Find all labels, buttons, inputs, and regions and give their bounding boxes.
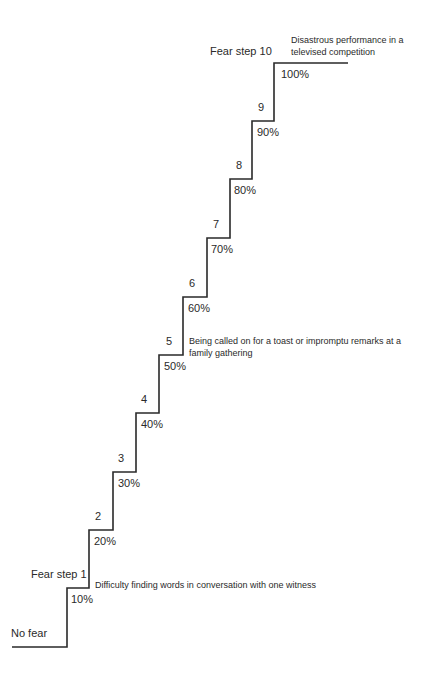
step-1-percent: 10% <box>71 593 93 606</box>
step-4-percent: 40% <box>141 418 163 431</box>
step-10-label: Fear step 10 <box>210 45 272 58</box>
no-fear-label: No fear <box>11 627 47 640</box>
step-2-label: 2 <box>95 510 101 523</box>
step-2-percent: 20% <box>94 535 116 548</box>
step-9-label: 9 <box>258 101 264 114</box>
step-10-description: Disastrous performance in a televised co… <box>291 34 416 58</box>
step-3-percent: 30% <box>118 477 140 490</box>
step-7-label: 7 <box>213 218 219 231</box>
step-8-percent: 80% <box>234 184 256 197</box>
step-1-label: Fear step 1 <box>31 568 87 581</box>
step-9-percent: 90% <box>257 126 279 139</box>
step-3-label: 3 <box>118 452 124 465</box>
step-10-percent: 100% <box>281 68 309 81</box>
step-8-label: 8 <box>236 159 242 172</box>
step-7-percent: 70% <box>211 243 233 256</box>
step-6-percent: 60% <box>188 302 210 315</box>
step-6-label: 6 <box>189 277 195 290</box>
step-5-description: Being called on for a toast or impromptu… <box>189 335 414 359</box>
step-1-description: Difficulty finding words in conversation… <box>95 579 395 591</box>
step-4-label: 4 <box>141 393 147 406</box>
step-5-percent: 50% <box>164 360 186 373</box>
step-5-label: 5 <box>166 335 172 348</box>
